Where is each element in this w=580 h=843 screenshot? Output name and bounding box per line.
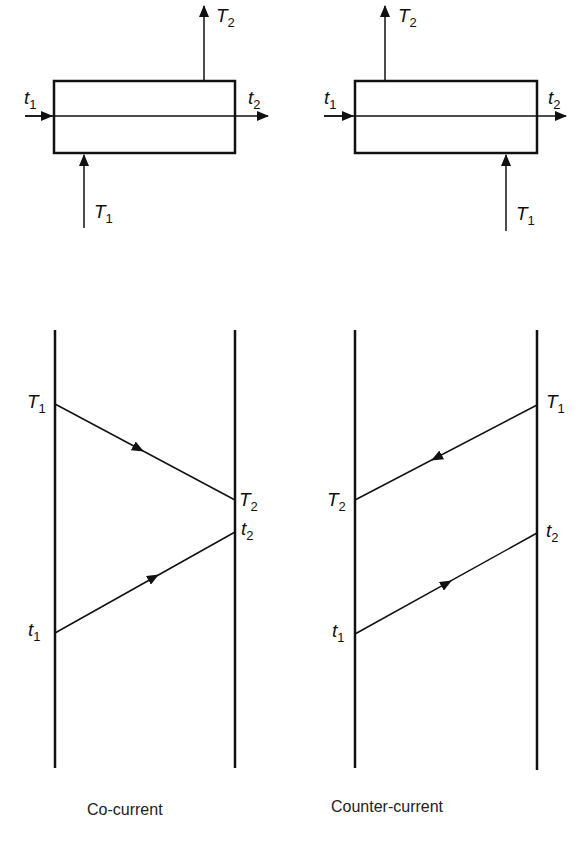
label-T1: T1 [27, 391, 46, 416]
cocurrent-exchanger-schematic: t1 t2 T1 T2 [24, 5, 268, 228]
label-T2: T2 [239, 489, 258, 514]
caption-cocurrent: Co-current [87, 801, 163, 818]
label-t1: t1 [324, 87, 337, 112]
label-t2: t2 [241, 518, 254, 543]
hot-stream-line [55, 404, 235, 500]
caption-countercurrent: Counter-current [331, 798, 444, 815]
label-T2: T2 [327, 489, 346, 514]
hot-stream-line [355, 405, 537, 500]
cold-stream-line [55, 532, 235, 633]
countercurrent-exchanger-schematic: t1 t2 T1 T2 [324, 5, 566, 231]
label-t2: t2 [548, 87, 561, 112]
label-t2: t2 [546, 520, 559, 545]
label-T1: T1 [94, 201, 113, 226]
label-t1: t1 [332, 620, 345, 645]
heat-exchanger-flow-diagram: t1 t2 T1 T2 t1 t2 T1 T2 T1 T2 t2 t1 T [0, 0, 580, 843]
cocurrent-temperature-profile: T1 T2 t2 t1 [27, 330, 258, 768]
exchanger-box [355, 81, 537, 153]
label-t1: t1 [24, 87, 37, 112]
label-t1: t1 [28, 619, 41, 644]
label-t2: t2 [248, 87, 261, 112]
exchanger-box [54, 81, 235, 153]
countercurrent-temperature-profile: T1 T2 t2 t1 [327, 330, 565, 770]
label-T2: T2 [398, 5, 417, 30]
cold-stream-line [355, 533, 537, 634]
label-T1: T1 [516, 203, 535, 228]
label-T2: T2 [216, 5, 235, 30]
label-T1: T1 [546, 391, 565, 416]
